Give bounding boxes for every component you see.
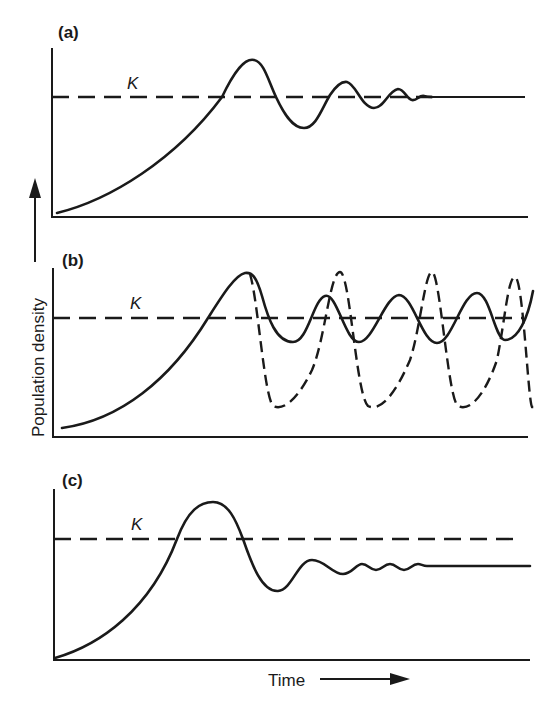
panel-a: (a) K: [52, 23, 528, 217]
panel-c-label: (c): [62, 471, 83, 490]
right-arrow-icon: [390, 673, 410, 685]
panel-b-k-label: K: [130, 294, 142, 313]
up-arrow-icon: [29, 178, 41, 198]
panel-b-axes: [53, 268, 528, 437]
x-axis-title-group: Time: [268, 671, 410, 690]
panel-b-dashed-curve: [250, 272, 538, 407]
panel-c-k-label: K: [131, 515, 143, 534]
panel-c-curve: [55, 502, 530, 658]
panel-b-label: (b): [62, 251, 84, 270]
population-dynamics-figure: Population density (a) K (b) K (c) K Tim…: [0, 0, 560, 706]
y-axis-title: Population density: [29, 298, 48, 437]
panel-a-k-label: K: [127, 74, 139, 93]
panel-c: (c) K: [54, 471, 530, 660]
panel-b: (b) K: [53, 251, 538, 437]
panel-a-axes: [52, 48, 528, 217]
panel-c-axes: [54, 489, 530, 660]
y-axis-title-group: Population density: [29, 178, 48, 437]
panel-a-label: (a): [58, 23, 79, 42]
x-axis-title: Time: [268, 671, 305, 690]
panel-a-curve: [57, 60, 432, 213]
